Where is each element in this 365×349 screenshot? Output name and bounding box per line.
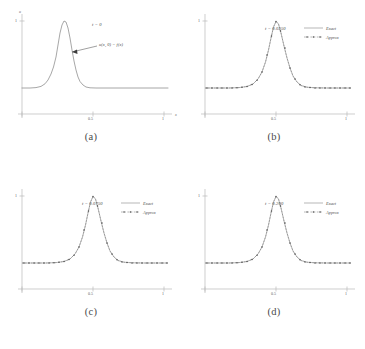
plot-svg-b: Exact Approx (183, 0, 365, 130)
x-axis-label: x (174, 112, 177, 117)
caption-c: (c) (0, 306, 182, 317)
plot-area-d: Exact Approx t = 0.200 0.5 1 1 (183, 175, 365, 305)
time-label-c: t = 0.0750 (82, 201, 103, 206)
x-tick-label-1-a: 1 (162, 116, 164, 121)
legend-key-approx (304, 211, 323, 213)
curve-exact (205, 197, 351, 264)
time-label-b: t = 0.0250 (265, 26, 286, 31)
figure-grid: x u t = 0 u(x, 0) = f(x) 0.5 1 1 (a) (0, 0, 365, 349)
y-tick-label-1-d: 1 (198, 193, 200, 198)
legend-label-exact-c: Exact (142, 201, 154, 206)
legend-key-approx (304, 36, 323, 38)
panel-c: Exact Approx t = 0.0750 0.5 1 1 (c) (0, 175, 182, 349)
curve-approx (205, 197, 351, 264)
x-tick-label-1-b: 1 (345, 116, 347, 121)
curve-exact (22, 21, 168, 88)
legend-label-approx-c: Approx (142, 210, 156, 215)
plot-svg-c: Exact Approx (0, 175, 182, 305)
plot-area-b: Exact Approx t = 0.0250 0.5 1 1 (183, 0, 365, 130)
x-tick-label-1-c: 1 (162, 291, 164, 296)
y-tick-label-1-a: 1 (15, 18, 17, 23)
panel-d: Exact Approx t = 0.200 0.5 1 1 (d) (183, 175, 365, 349)
curve-approx (205, 22, 351, 89)
y-tick-label-1-c: 1 (15, 193, 17, 198)
x-tick-label-05-a: 0.5 (88, 116, 93, 121)
caption-b: (b) (183, 131, 365, 142)
curve-approx (22, 197, 168, 264)
legend-label-approx-b: Approx (325, 35, 339, 40)
curve-exact (205, 22, 351, 89)
legend-label-approx-d: Approx (325, 210, 339, 215)
plot-svg-a: x u (0, 0, 182, 130)
y-tick-label-1-b: 1 (198, 18, 200, 23)
curve-exact (22, 197, 168, 264)
y-axis-label: u (19, 9, 21, 14)
x-tick-label-1-d: 1 (345, 291, 347, 296)
panel-b: Exact Approx t = 0.0250 0.5 1 1 (b) (183, 0, 365, 174)
legend-label-exact-b: Exact (325, 26, 337, 31)
initial-condition-annotation: u(x, 0) = f(x) (99, 42, 123, 47)
plot-area-c: Exact Approx t = 0.0750 0.5 1 1 (0, 175, 182, 305)
plot-svg-d: Exact Approx (183, 175, 365, 305)
panel-a: x u t = 0 u(x, 0) = f(x) 0.5 1 1 (a) (0, 0, 182, 174)
plot-area-a: x u t = 0 u(x, 0) = f(x) 0.5 1 1 (0, 0, 182, 130)
time-label-a: t = 0 (92, 22, 102, 27)
x-tick-label-05-d: 0.5 (271, 291, 276, 296)
caption-d: (d) (183, 306, 365, 317)
time-label-d: t = 0.200 (265, 201, 283, 206)
x-tick-label-05-c: 0.5 (88, 291, 93, 296)
legend-label-exact-d: Exact (325, 201, 337, 206)
caption-a: (a) (0, 131, 182, 142)
x-tick-label-05-b: 0.5 (271, 116, 276, 121)
legend-key-approx (121, 211, 140, 213)
